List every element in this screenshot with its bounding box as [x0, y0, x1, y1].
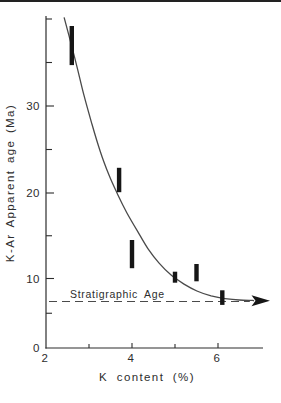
x-tick-label: 6: [214, 352, 221, 364]
k-ar-age-chart: 0102030 246 Stratigraphic Age K content …: [0, 0, 281, 403]
x-tick-label: 4: [128, 352, 135, 364]
error-bars: [70, 26, 225, 305]
y-tick-label: 20: [26, 187, 40, 199]
y-tick-label: 30: [26, 100, 40, 112]
error-bar: [194, 264, 198, 281]
error-bar: [173, 272, 177, 283]
y-tick-label: 0: [33, 342, 40, 354]
y-axis-title: K-Ar Apparent age (Ma): [4, 104, 16, 262]
stratigraphic-age-label: Stratigraphic Age: [70, 288, 165, 300]
arrow-head-icon: [252, 295, 271, 306]
y-tick-label: 10: [26, 273, 40, 285]
k-ar-age-figure: 0102030 246 Stratigraphic Age K content …: [0, 0, 281, 403]
error-bar: [220, 290, 224, 305]
error-bar: [117, 168, 121, 192]
x-axis-ticks: 246: [42, 343, 221, 364]
x-tick-label: 2: [42, 352, 49, 364]
error-bar: [130, 240, 134, 268]
decay-curve: [64, 17, 254, 301]
x-axis-title: K content (%): [99, 371, 195, 383]
error-bar: [70, 26, 74, 65]
y-axis-ticks: 0102030: [26, 19, 54, 354]
